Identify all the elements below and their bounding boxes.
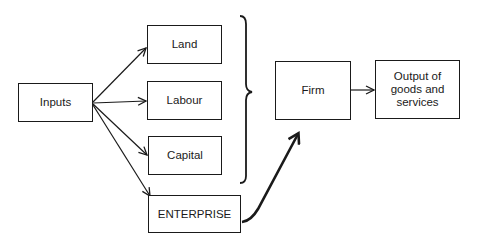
node-inputs-label: Inputs: [40, 96, 71, 109]
node-enterprise-label: ENTERPRISE: [158, 208, 232, 221]
node-labour: Labour: [147, 81, 222, 120]
arrow-inputs-to-labour: [93, 101, 146, 103]
node-capital: Capital: [148, 136, 222, 175]
arrow-enterprise-to-firm: [242, 134, 298, 222]
node-land: Land: [147, 25, 222, 64]
node-inputs: Inputs: [18, 83, 93, 122]
node-labour-label: Labour: [167, 94, 203, 107]
brace-icon: [240, 16, 252, 183]
node-output-label: Output of goods and services: [384, 70, 451, 109]
node-land-label: Land: [172, 38, 198, 51]
node-firm-label: Firm: [302, 84, 325, 97]
node-capital-label: Capital: [167, 149, 203, 162]
node-output: Output of goods and services: [375, 60, 460, 119]
arrow-inputs-to-land: [93, 48, 146, 102]
node-enterprise: ENTERPRISE: [148, 195, 241, 233]
node-firm: Firm: [275, 61, 351, 120]
